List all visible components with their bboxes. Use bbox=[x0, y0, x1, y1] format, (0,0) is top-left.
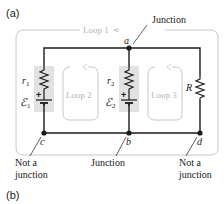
circuit-diagram: (a) Loop 1 Loop 2 Loop 3 + + bbox=[0, 0, 224, 204]
loop3-label: Loop 3 bbox=[151, 90, 177, 100]
loop1-label: Loop 1 bbox=[83, 25, 109, 35]
label-emf2: ℰ2 bbox=[105, 96, 116, 110]
label-R: R bbox=[185, 82, 192, 93]
label-emf1: ℰ1 bbox=[20, 96, 31, 110]
label-r1: r1 bbox=[22, 75, 30, 88]
panel-a-label: (a) bbox=[6, 7, 19, 19]
not-junction-right-line2: junction bbox=[178, 169, 212, 180]
junction-label-bottom: Junction bbox=[91, 157, 125, 168]
loop1-arrow-icon bbox=[114, 29, 119, 32]
panel-b-label: (b) bbox=[6, 189, 19, 201]
battery1-plus: + bbox=[36, 90, 41, 100]
not-junction-right-line1: Not a bbox=[179, 157, 202, 168]
node-a bbox=[126, 45, 131, 50]
not-junction-left-line2: junction bbox=[14, 169, 48, 180]
resistor-R bbox=[196, 76, 204, 100]
loop3-arrow-icon bbox=[167, 64, 171, 70]
battery2-plus: + bbox=[121, 90, 126, 100]
node-d-label: d bbox=[197, 136, 203, 147]
loop2-arrow-icon bbox=[83, 64, 87, 70]
node-b bbox=[126, 130, 131, 135]
node-d bbox=[197, 130, 202, 135]
loop2-label: Loop 2 bbox=[66, 90, 92, 100]
node-b-label: b bbox=[126, 136, 131, 147]
junction-label-top: Junction bbox=[152, 14, 186, 25]
node-a-label: a bbox=[124, 35, 129, 46]
not-junction-left-line1: Not a bbox=[15, 157, 38, 168]
label-r2: r2 bbox=[107, 75, 115, 88]
node-c bbox=[41, 130, 46, 135]
